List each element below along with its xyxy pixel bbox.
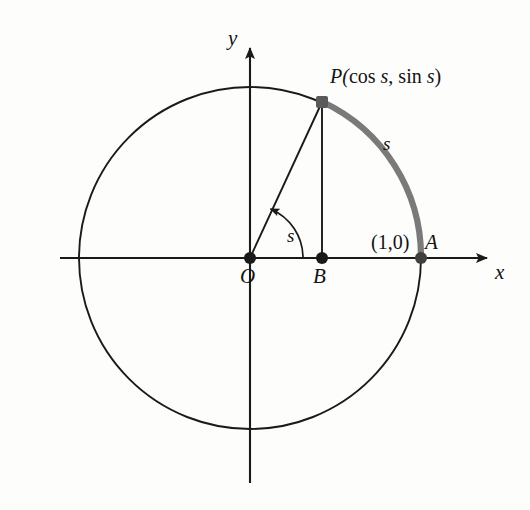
point-p-dot [316, 96, 328, 108]
diagram-canvas [0, 0, 530, 510]
point-p-prefix: P( [330, 65, 349, 87]
point-p-suffix: ) [435, 65, 442, 87]
unit-circle-diagram: y x O B A (1,0) P(cos s, sin s) s s [0, 0, 530, 510]
y-axis-label: y [228, 28, 237, 49]
point-p-label: P(cos s, sin s) [330, 66, 441, 86]
point-p-comma: , [388, 65, 398, 87]
point-o-dot [244, 252, 256, 264]
point-p-cos: cos [349, 65, 376, 87]
point-a-label: A [425, 232, 438, 253]
point-b-label: B [313, 266, 326, 287]
point-b-dot [316, 252, 328, 264]
point-p-sin: sin [398, 65, 421, 87]
point-o-label: O [240, 266, 255, 287]
x-axis-label: x [495, 262, 504, 283]
point-a-coordinates-label: (1,0) [371, 232, 409, 252]
arc-length-label: s [383, 134, 390, 153]
radius-segment-op [250, 102, 322, 258]
angle-label: s [287, 226, 294, 245]
point-p-var2: s [427, 65, 435, 87]
